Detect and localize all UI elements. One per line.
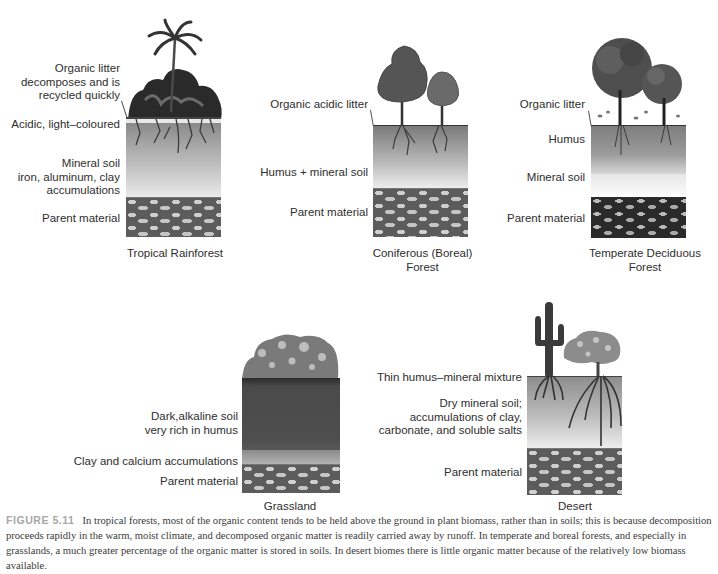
label-parent-material-desert: Parent material xyxy=(444,466,522,480)
cactus-icon xyxy=(532,300,566,378)
label-organic-litter-tropical: Organic litter decomposes and is recycle… xyxy=(21,62,120,103)
roots-icon xyxy=(591,125,686,165)
label-mineral-soil-temperate: Mineral soil xyxy=(527,171,585,185)
conifer-trees-icon xyxy=(372,42,468,126)
label-mineral-soil-tropical: Mineral soil iron, aluminum, clay accumu… xyxy=(18,157,120,198)
grass-flowers-icon xyxy=(242,331,340,379)
title-desert: Desert xyxy=(530,499,620,513)
label-dry-mineral-soil: Dry mineral soil; accumulations of clay,… xyxy=(379,397,522,438)
soil-column-grassland xyxy=(242,378,340,493)
title-coniferous-forest: Coniferous (Boreal) Forest xyxy=(355,246,490,274)
figure-caption: FIGURE 5.11In tropical forests, most of … xyxy=(6,513,712,573)
palm-tree-icon xyxy=(125,20,225,120)
label-organic-litter-temperate: Organic litter xyxy=(520,98,585,112)
label-parent-material-temperate: Parent material xyxy=(507,212,585,226)
shrub-icon xyxy=(562,328,622,378)
caption-text: In tropical forests, most of the organic… xyxy=(6,515,712,571)
label-organic-acidic-litter: Organic acidic litter xyxy=(270,98,368,112)
roots-icon xyxy=(126,117,221,157)
title-grassland: Grassland xyxy=(220,499,360,513)
figure-label: FIGURE 5.11 xyxy=(6,514,75,526)
title-temperate-deciduous-forest: Temperate Deciduous Forest xyxy=(580,246,710,274)
roots-icon xyxy=(373,125,468,165)
label-dark-alkaline-soil: Dark,alkaline soil very rich in humus xyxy=(145,410,238,437)
label-humus: Humus xyxy=(549,133,585,147)
label-acidic-light-coloured: Acidic, light–coloured xyxy=(11,118,120,132)
label-thin-humus-mineral-mixture: Thin humus–mineral mixture xyxy=(377,371,522,385)
title-tropical-rainforest: Tropical Rainforest xyxy=(120,246,230,260)
label-parent-material-tropical: Parent material xyxy=(42,212,120,226)
roots-icon xyxy=(527,376,622,448)
label-parent-material-grassland: Parent material xyxy=(160,475,238,489)
deciduous-trees-icon xyxy=(588,32,684,126)
label-parent-material-coniferous: Parent material xyxy=(290,206,368,220)
label-humus-mineral-soil: Humus + mineral soil xyxy=(260,166,368,180)
label-clay-calcium-accumulations: Clay and calcium accumulations xyxy=(74,455,238,469)
